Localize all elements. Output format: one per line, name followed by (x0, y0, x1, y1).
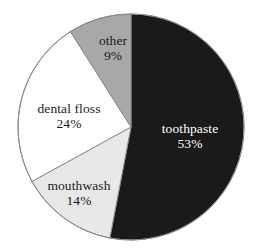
pie-chart: toothpaste 53% mouthwash 14% dental flos… (0, 0, 260, 250)
pie-slice-group (18, 14, 244, 240)
pie-chart-canvas (0, 0, 260, 250)
